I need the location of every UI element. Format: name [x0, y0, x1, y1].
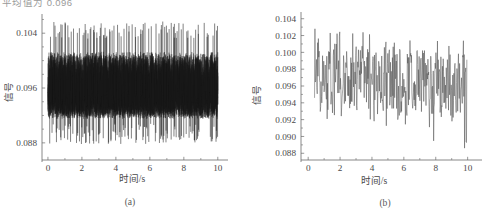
y-tick-label-b: 0.090	[275, 132, 296, 142]
signal-trace-b	[315, 29, 467, 148]
y-tick-label-b: 0.102	[275, 31, 296, 41]
y-tick-label-b: 0.104	[275, 14, 296, 24]
x-tick-label-a: 8	[182, 163, 187, 173]
y-tick-label-a: 0.088	[16, 138, 37, 148]
y-axis-title-a: 信号	[3, 82, 14, 102]
y-axis-title-b: 信号	[251, 85, 262, 105]
x-tick-label-a: 6	[148, 163, 153, 173]
x-tick-label-b: 6	[402, 163, 407, 173]
plot-b-svg: 02468100.0880.0900.0920.0940.0960.0980.1…	[246, 0, 492, 216]
x-tick-label-b: 2	[338, 163, 343, 173]
x-tick-label-a: 10	[213, 163, 223, 173]
x-tick-label-b: 0	[306, 163, 311, 173]
plot-a-data-traces	[48, 22, 218, 144]
y-tick-label-a: 0.104	[16, 28, 37, 38]
chart-panel-b: 02468100.0880.0900.0920.0940.0960.0980.1…	[246, 0, 492, 216]
x-axis-title-b: 时间/s	[361, 175, 388, 186]
x-tick-label-b: 4	[370, 163, 375, 173]
x-tick-label-b: 8	[433, 163, 438, 173]
y-tick-label-b: 0.098	[275, 64, 296, 74]
y-tick-label-b: 0.094	[275, 98, 296, 108]
x-tick-label-b: 10	[463, 163, 473, 173]
x-tick-label-a: 4	[114, 163, 119, 173]
y-tick-label-b: 0.088	[275, 148, 296, 158]
x-axis-title-a: 时间/s	[119, 173, 146, 184]
x-tick-label-a: 0	[46, 163, 51, 173]
plot-b-axis-labels: 02468100.0880.0900.0920.0940.0960.0980.1…	[275, 14, 472, 173]
panel-caption-b: (b)	[379, 197, 390, 209]
y-tick-label-b: 0.092	[275, 115, 296, 125]
y-tick-label-b: 0.096	[275, 81, 296, 91]
x-tick-label-a: 2	[80, 163, 85, 173]
chart-panel-a: 02468100.0880.0960.104 时间/s 信号 (a)	[0, 0, 246, 216]
y-tick-label-a: 0.096	[16, 83, 37, 93]
y-tick-label-b: 0.100	[275, 48, 296, 58]
plot-a-svg: 02468100.0880.0960.104 时间/s 信号 (a)	[0, 0, 246, 216]
plot-b-data-traces	[315, 29, 467, 148]
panel-caption-a: (a)	[125, 196, 136, 208]
figure-root: 平均值为 0.096 02468100.0880.0960.104 时间/s 信…	[0, 0, 492, 216]
